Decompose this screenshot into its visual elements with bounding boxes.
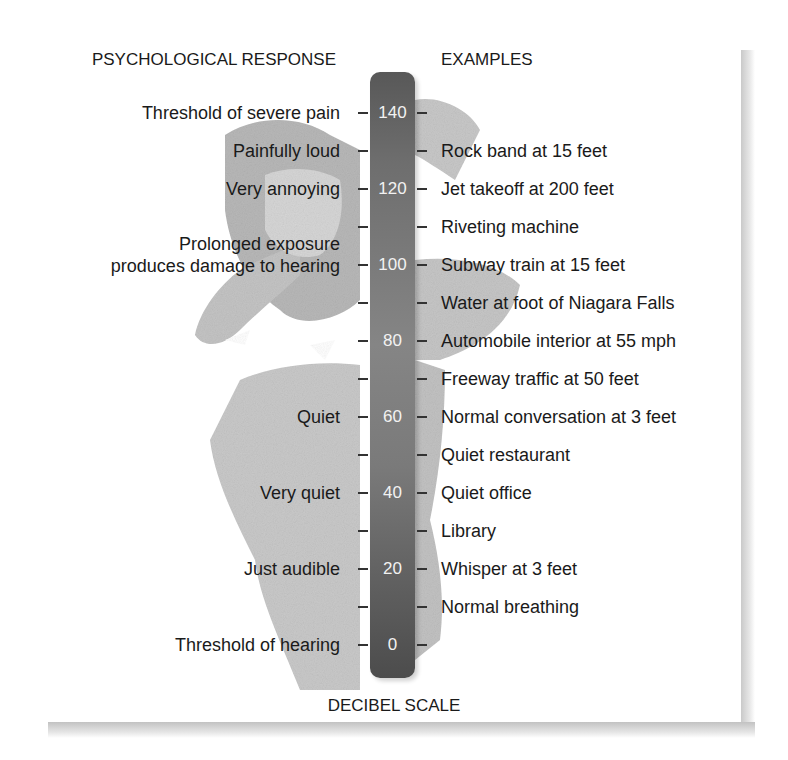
scale-label-0: 0	[370, 635, 415, 655]
response-painfully-loud: Painfully loud	[233, 140, 340, 162]
example-rock-band: Rock band at 15 feet	[441, 141, 607, 162]
tick-right-120	[417, 188, 427, 190]
example-library: Library	[441, 521, 496, 542]
tick-left-20	[358, 568, 368, 570]
tick-right-50	[417, 454, 427, 456]
card-shadow-bottom	[48, 722, 755, 738]
example-freeway-traffic: Freeway traffic at 50 feet	[441, 369, 639, 390]
response-threshold-of-hearing: Threshold of hearing	[175, 634, 340, 656]
tick-left-130	[358, 150, 368, 152]
tick-right-40	[417, 492, 427, 494]
tick-right-80	[417, 340, 427, 342]
response-just-audible: Just audible	[244, 558, 340, 580]
tick-left-50	[358, 454, 368, 456]
tick-right-110	[417, 226, 427, 228]
example-automobile-interior: Automobile interior at 55 mph	[441, 331, 676, 352]
example-niagara-falls: Water at foot of Niagara Falls	[441, 293, 674, 314]
tick-left-70	[358, 378, 368, 380]
scale-label-140: 140	[370, 103, 415, 123]
tick-left-60	[358, 416, 368, 418]
tick-right-0	[417, 644, 427, 646]
response-severe-pain: Threshold of severe pain	[142, 102, 340, 124]
example-subway-train: Subway train at 15 feet	[441, 255, 625, 276]
examples-header: EXAMPLES	[441, 50, 533, 70]
example-jet-takeoff: Jet takeoff at 200 feet	[441, 179, 614, 200]
tick-right-90	[417, 302, 427, 304]
tick-left-80	[358, 340, 368, 342]
tick-right-20	[417, 568, 427, 570]
tick-left-120	[358, 188, 368, 190]
tick-left-10	[358, 606, 368, 608]
tick-left-0	[358, 644, 368, 646]
response-very-annoying: Very annoying	[226, 178, 340, 200]
tick-left-100	[358, 264, 368, 266]
tick-right-10	[417, 606, 427, 608]
scale-label-120: 120	[370, 179, 415, 199]
example-quiet-restaurant: Quiet restaurant	[441, 445, 570, 466]
tick-left-110	[358, 226, 368, 228]
tick-left-40	[358, 492, 368, 494]
example-riveting-machine: Riveting machine	[441, 217, 579, 238]
tick-right-130	[417, 150, 427, 152]
decibel-scale-bar	[370, 72, 415, 678]
decibel-scale-title: DECIBEL SCALE	[0, 696, 788, 716]
scale-label-80: 80	[370, 331, 415, 351]
tick-left-30	[358, 530, 368, 532]
tick-right-140	[417, 112, 427, 114]
tick-left-90	[358, 302, 368, 304]
scale-label-40: 40	[370, 483, 415, 503]
response-hearing-damage: Prolonged exposure produces damage to he…	[111, 233, 340, 277]
example-quiet-office: Quiet office	[441, 483, 532, 504]
scale-label-100: 100	[370, 255, 415, 275]
scale-label-20: 20	[370, 559, 415, 579]
tick-right-30	[417, 530, 427, 532]
tick-left-140	[358, 112, 368, 114]
card-shadow-right	[741, 50, 755, 728]
tick-right-60	[417, 416, 427, 418]
tick-right-100	[417, 264, 427, 266]
psychological-response-header: PSYCHOLOGICAL RESPONSE	[92, 50, 336, 70]
example-normal-breathing: Normal breathing	[441, 597, 579, 618]
example-whisper: Whisper at 3 feet	[441, 559, 577, 580]
scale-label-60: 60	[370, 407, 415, 427]
tick-right-70	[417, 378, 427, 380]
response-very-quiet: Very quiet	[260, 482, 340, 504]
example-normal-conversation: Normal conversation at 3 feet	[441, 407, 676, 428]
response-quiet: Quiet	[297, 406, 340, 428]
